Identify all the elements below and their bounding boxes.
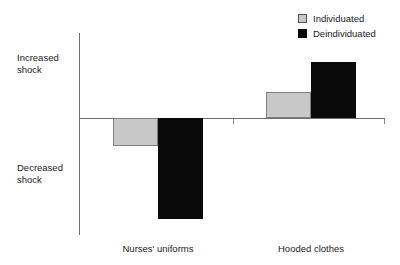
category-label-hooded-clothes: Hooded clothes xyxy=(261,243,361,254)
bar-chart: Individuated Deindividuated Increased sh… xyxy=(0,0,400,265)
plot-area xyxy=(0,0,400,265)
bar-hooded-deindividuated xyxy=(311,62,356,118)
bar-nurses-deindividuated xyxy=(158,118,203,219)
bar-hooded-individuated xyxy=(266,92,311,118)
bar-nurses-individuated xyxy=(113,118,158,146)
category-label-nurses-uniforms: Nurses' uniforms xyxy=(108,243,208,254)
